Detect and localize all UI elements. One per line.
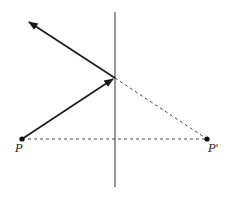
point-p-prime-dot xyxy=(204,136,209,141)
incident-ray xyxy=(22,79,113,139)
reflection-diagram: P P' xyxy=(0,0,229,200)
point-p-label: P xyxy=(14,142,23,155)
point-p-dot xyxy=(19,136,24,141)
dashed-virtual-ray-line xyxy=(115,78,207,139)
point-p-prime-label: P' xyxy=(207,142,218,155)
reflected-ray xyxy=(29,22,115,78)
